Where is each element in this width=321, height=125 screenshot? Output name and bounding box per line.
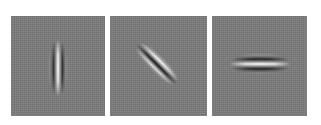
gabor-patch-vertical <box>47 40 69 96</box>
gabor-stripes <box>230 52 290 76</box>
gabor-patch-horizontal <box>230 52 290 76</box>
gabor-panel-horizontal <box>212 16 307 116</box>
gabor-panel-vertical <box>11 16 105 116</box>
gabor-panel-diagonal <box>110 16 207 116</box>
gabor-stripes <box>47 40 69 96</box>
